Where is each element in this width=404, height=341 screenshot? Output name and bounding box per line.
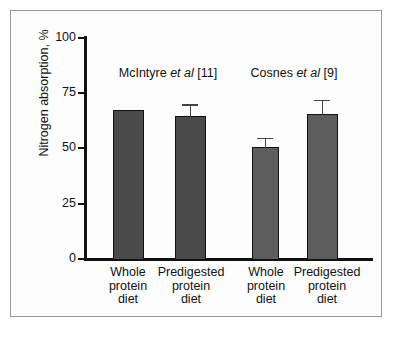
category-label-2-line-0: Whole xyxy=(236,266,296,280)
cosnes-label-before: Cosnes xyxy=(251,66,297,80)
figure-root: Nitrogen absorption, % 100 75 50 25 0 Mc… xyxy=(0,0,404,341)
y-tick-label-25: 25 xyxy=(62,197,76,210)
category-label-3: Predigested protein diet xyxy=(289,266,365,307)
y-tick-25 xyxy=(78,203,85,205)
category-label-3-line-1: protein xyxy=(289,280,365,294)
y-tick-0 xyxy=(78,258,85,260)
category-label-1-line-1: protein xyxy=(153,280,229,294)
bar-mcintyre-whole xyxy=(113,110,144,260)
category-label-3-line-0: Predigested xyxy=(289,266,365,280)
error-bar-cap-cosnes-whole xyxy=(257,138,273,140)
y-tick-75 xyxy=(78,92,85,94)
y-tick-50 xyxy=(78,147,85,149)
y-tick-label-50: 50 xyxy=(62,141,76,154)
y-tick-100 xyxy=(78,37,85,39)
cosnes-group-label: Cosnes et al [9] xyxy=(239,66,349,80)
error-bar-stem-cosnes-whole xyxy=(265,138,267,149)
category-label-2-line-2: diet xyxy=(236,293,296,307)
mcintyre-label-italic: et al xyxy=(170,66,194,80)
bar-cosnes-predigested xyxy=(307,114,338,260)
cosnes-label-after: [9] xyxy=(320,66,337,80)
mcintyre-label-after: [11] xyxy=(194,66,217,80)
cosnes-label-italic: et al xyxy=(296,66,320,80)
y-tick-label-0: 0 xyxy=(69,252,76,265)
y-axis-title: Nitrogen absorption, % xyxy=(37,13,51,173)
category-label-0: Whole protein diet xyxy=(98,266,158,307)
category-label-0-line-1: protein xyxy=(98,280,158,294)
error-bar-cap-mcintyre-predigested xyxy=(182,104,198,106)
y-tick-label-75: 75 xyxy=(62,86,76,99)
error-bar-cap-cosnes-predigested xyxy=(314,100,330,102)
bar-cosnes-whole xyxy=(252,147,279,260)
category-label-1-line-2: diet xyxy=(153,293,229,307)
bar-mcintyre-predigested xyxy=(175,116,206,260)
category-label-1: Predigested protein diet xyxy=(153,266,229,307)
category-label-2-line-1: protein xyxy=(236,280,296,294)
y-tick-label-100: 100 xyxy=(55,31,76,44)
category-label-1-line-0: Predigested xyxy=(153,266,229,280)
mcintyre-label-before: McIntyre xyxy=(119,66,170,80)
category-label-0-line-2: diet xyxy=(98,293,158,307)
category-label-2: Whole protein diet xyxy=(236,266,296,307)
error-bar-stem-mcintyre-predigested xyxy=(190,104,192,117)
error-bar-stem-cosnes-predigested xyxy=(322,100,324,115)
category-label-3-line-2: diet xyxy=(289,293,365,307)
mcintyre-group-label: McIntyre et al [11] xyxy=(108,66,228,80)
category-label-0-line-0: Whole xyxy=(98,266,158,280)
